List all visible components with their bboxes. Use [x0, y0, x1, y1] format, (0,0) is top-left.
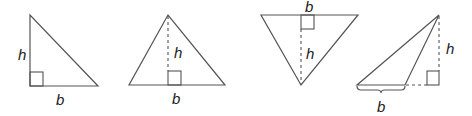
right-angle-marker [301, 15, 314, 29]
triangle-2-acute: h b [129, 15, 225, 107]
height-label: h [446, 40, 454, 57]
base-label: b [377, 98, 385, 115]
base-brace-icon [357, 86, 405, 93]
height-label: h [174, 44, 182, 61]
base-label: b [305, 0, 313, 15]
triangle-1-right: h b [18, 15, 98, 108]
triangle-3-inverted: b h [261, 0, 358, 85]
right-angle-marker [427, 71, 439, 85]
triangles-diagram: h b h b b h h b [0, 0, 472, 116]
right-angle-marker [168, 71, 181, 85]
triangle-4-obtuse: h b [357, 15, 454, 115]
right-angle-marker [30, 72, 43, 86]
height-label: h [18, 46, 26, 63]
base-label: b [56, 91, 64, 108]
height-label: h [306, 45, 314, 62]
triangle-1-outline [30, 15, 98, 86]
base-label: b [172, 90, 180, 107]
